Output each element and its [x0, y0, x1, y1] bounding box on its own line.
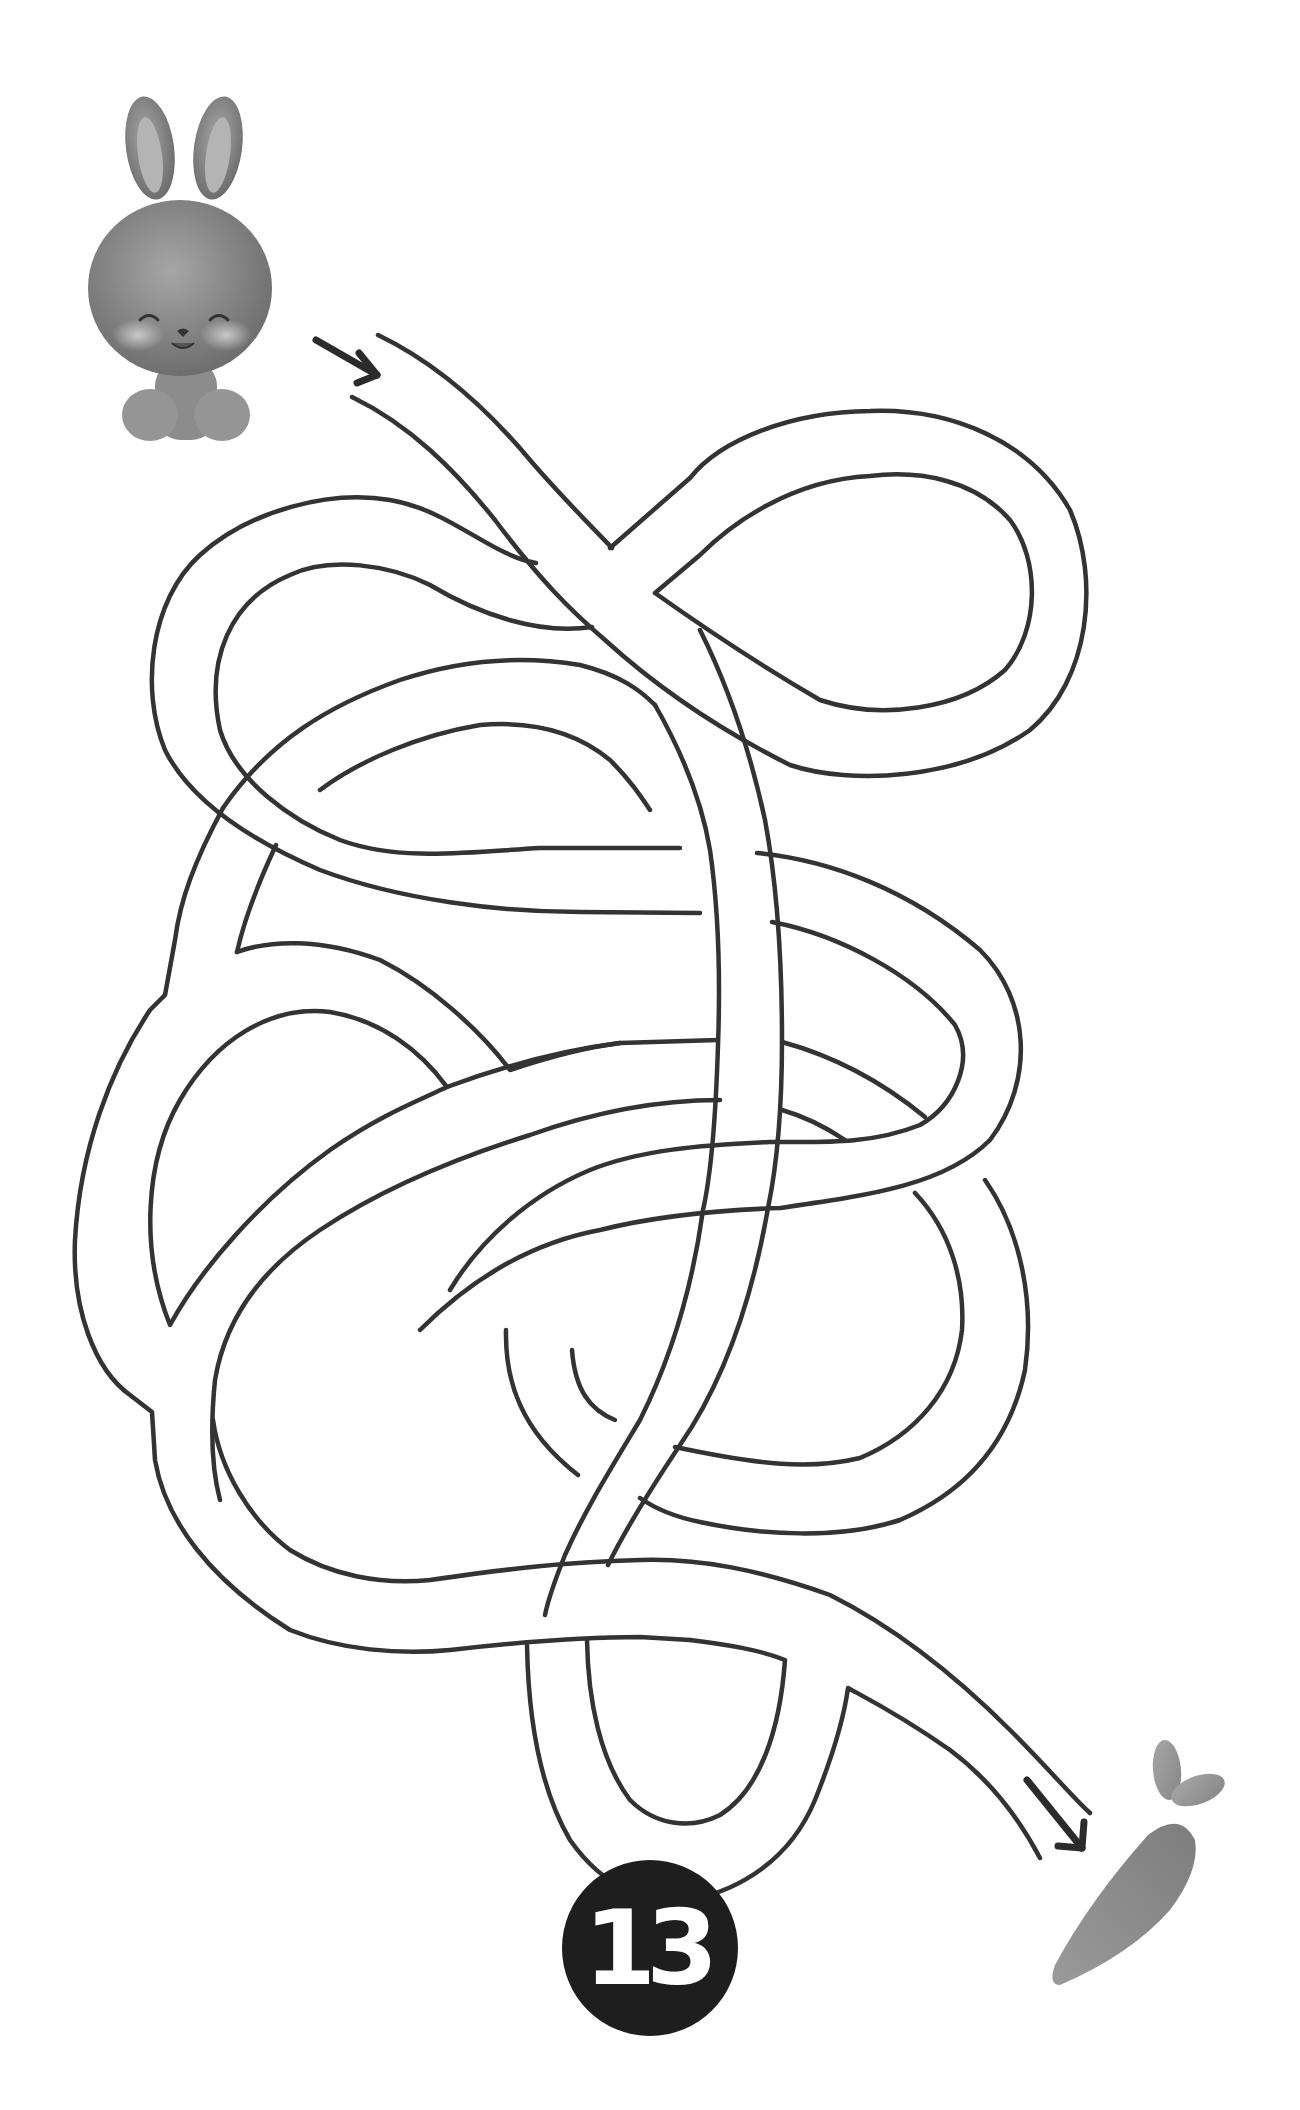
bunny-icon [88, 93, 272, 441]
start-arrow-icon [316, 340, 377, 383]
maze-walls [75, 335, 1090, 1901]
carrot-icon [1052, 1739, 1229, 1985]
end-arrow-icon [1027, 1780, 1084, 1848]
maze-board [0, 0, 1300, 2110]
page-number-badge: 13 [562, 1860, 738, 2036]
page-number: 13 [584, 1896, 709, 2000]
